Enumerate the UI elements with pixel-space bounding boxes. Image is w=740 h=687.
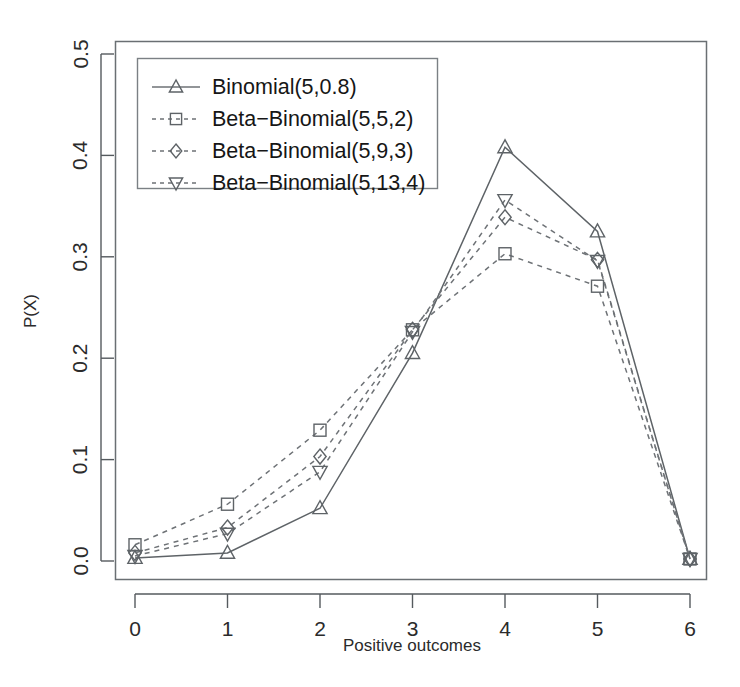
series-0: [128, 140, 697, 565]
probability-distribution-chart: 0.00.10.20.30.40.5 P(X) 0123456 Positive…: [0, 0, 740, 687]
x-tick-label: 1: [222, 617, 234, 640]
y-tick-label: 0.1: [69, 445, 92, 474]
series-line: [135, 147, 690, 559]
series-1: [129, 248, 696, 565]
x-tick-label: 4: [499, 617, 511, 640]
data-point-marker: [590, 224, 604, 237]
data-point-marker: [313, 466, 327, 479]
x-tick-label: 0: [129, 617, 141, 640]
series-line: [135, 200, 690, 559]
data-point-marker: [499, 210, 511, 225]
chart-figure: 0.00.10.20.30.40.5 P(X) 0123456 Positive…: [0, 0, 740, 687]
y-tick-label: 0.4: [69, 140, 92, 170]
legend-label: Beta−Binomial(5,9,3): [212, 139, 413, 163]
series-3: [128, 195, 697, 567]
data-point-marker: [220, 545, 234, 558]
y-ticklabel-group: 0.00.10.20.30.40.5: [69, 39, 92, 575]
x-axis: 0123456 Positive outcomes: [129, 594, 696, 655]
x-tick-label: 5: [592, 617, 604, 640]
y-axis: 0.00.10.20.30.40.5 P(X): [21, 39, 114, 575]
legend-label: Binomial(5,0.8): [212, 75, 357, 99]
legend-label: Beta−Binomial(5,13,4): [212, 171, 425, 195]
y-tick-label: 0.2: [69, 344, 92, 373]
y-tick-label: 0.3: [69, 242, 92, 271]
x-tick-group: [135, 594, 690, 608]
data-point-marker: [498, 140, 512, 153]
chart-legend: Binomial(5,0.8)Beta−Binomial(5,5,2)Beta−…: [138, 59, 438, 196]
y-tick-label: 0.5: [69, 39, 92, 68]
data-point-marker: [499, 248, 511, 260]
series-line: [135, 254, 690, 559]
x-axis-title: Positive outcomes: [343, 636, 481, 655]
y-axis-title: P(X): [21, 294, 40, 328]
x-tick-label: 6: [684, 617, 696, 640]
series-layer: [128, 140, 697, 567]
series-2: [129, 210, 696, 567]
legend-label: Beta−Binomial(5,5,2): [212, 107, 413, 131]
y-tick-group: [101, 54, 114, 561]
x-tick-label: 2: [314, 617, 326, 640]
y-tick-label: 0.0: [69, 546, 92, 575]
